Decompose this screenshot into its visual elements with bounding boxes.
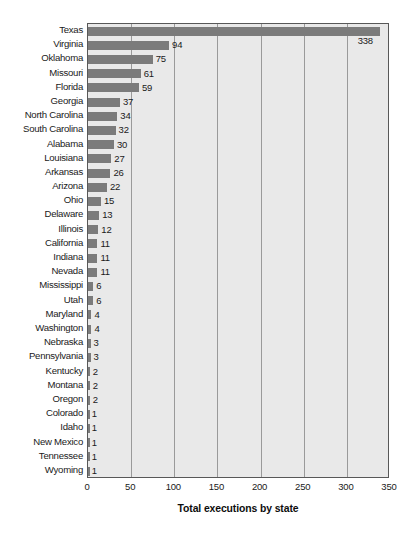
bar[interactable] <box>88 126 116 135</box>
bar[interactable] <box>88 310 91 319</box>
bar-value-label: 75 <box>156 53 166 65</box>
bar-row: 11 <box>88 265 388 279</box>
bar[interactable] <box>88 353 91 362</box>
category-label: Illinois <box>0 222 83 236</box>
bar[interactable] <box>88 69 141 78</box>
bar[interactable] <box>88 438 90 447</box>
category-label: Tennessee <box>0 449 83 463</box>
bar-rows: 3389475615937343230272622151312111111664… <box>88 24 388 477</box>
bar-value-label: 15 <box>104 195 114 207</box>
category-label: California <box>0 236 83 250</box>
category-label: Mississippi <box>0 278 83 292</box>
category-label: Alabama <box>0 137 83 151</box>
x-tick-label: 50 <box>125 481 135 493</box>
category-label: Washington <box>0 321 83 335</box>
bar[interactable] <box>88 197 101 206</box>
category-label: Maryland <box>0 307 83 321</box>
bar[interactable] <box>88 381 90 390</box>
bar-row: 4 <box>88 308 388 322</box>
bar-row: 37 <box>88 95 388 109</box>
bar-row: 1 <box>88 421 388 435</box>
bar-row: 6 <box>88 279 388 293</box>
category-label: Utah <box>0 293 83 307</box>
bar[interactable] <box>88 325 91 334</box>
bar[interactable] <box>88 140 114 149</box>
bar-row: 61 <box>88 67 388 81</box>
bar-value-label: 1 <box>92 408 97 420</box>
bar[interactable] <box>88 282 93 291</box>
bar[interactable] <box>88 467 90 476</box>
x-axis-title: Total executions by state <box>87 503 389 514</box>
bar-value-label: 32 <box>119 124 129 136</box>
x-tick-label: 250 <box>295 481 310 493</box>
bar-row: 3 <box>88 350 388 364</box>
bar[interactable] <box>88 27 380 36</box>
bar-row: 1 <box>88 407 388 421</box>
bar-value-label: 13 <box>102 209 112 221</box>
category-label: Georgia <box>0 94 83 108</box>
bar-row: 3 <box>88 336 388 350</box>
bar-value-label: 12 <box>101 224 111 236</box>
bar-row: 59 <box>88 81 388 95</box>
bar-value-label: 6 <box>96 280 101 292</box>
bar[interactable] <box>88 55 153 64</box>
bar[interactable] <box>88 296 93 305</box>
x-tick-label: 0 <box>84 481 89 493</box>
bar-row: 32 <box>88 123 388 137</box>
bar-value-label: 2 <box>93 366 98 378</box>
bar-value-label: 59 <box>142 82 152 94</box>
bar-row: 15 <box>88 194 388 208</box>
bar[interactable] <box>88 83 139 92</box>
category-label: Montana <box>0 378 83 392</box>
category-label: Wyoming <box>0 463 83 477</box>
category-label: Florida <box>0 80 83 94</box>
bar-value-label: 2 <box>93 380 98 392</box>
bar[interactable] <box>88 452 90 461</box>
bar[interactable] <box>88 424 90 433</box>
bar-row: 27 <box>88 152 388 166</box>
x-tick-label: 200 <box>252 481 267 493</box>
bar-chart: 3389475615937343230272622151312111111664… <box>0 0 405 533</box>
bar[interactable] <box>88 98 120 107</box>
category-label: Virginia <box>0 37 83 51</box>
bar[interactable] <box>88 112 117 121</box>
category-label: Delaware <box>0 207 83 221</box>
bar-row: 338 <box>88 24 388 38</box>
bar[interactable] <box>88 254 97 263</box>
bar-value-label: 3 <box>94 337 99 349</box>
category-label: Indiana <box>0 250 83 264</box>
category-label: Ohio <box>0 193 83 207</box>
bar-value-label: 11 <box>100 266 109 278</box>
x-axis-tick-labels: 050100150200250300350 <box>87 481 389 495</box>
bar[interactable] <box>88 339 91 348</box>
category-label: Nebraska <box>0 335 83 349</box>
bar-value-label: 1 <box>92 422 97 434</box>
bar[interactable] <box>88 367 90 376</box>
bar-row: 2 <box>88 393 388 407</box>
category-label: Arkansas <box>0 165 83 179</box>
bar-row: 11 <box>88 237 388 251</box>
bar[interactable] <box>88 41 169 50</box>
category-label: Arizona <box>0 179 83 193</box>
bar-value-label: 4 <box>94 323 99 335</box>
category-label: Colorado <box>0 406 83 420</box>
bar[interactable] <box>88 268 97 277</box>
bar-value-label: 61 <box>144 68 154 80</box>
bar[interactable] <box>88 239 97 248</box>
bar[interactable] <box>88 211 99 220</box>
category-label: Kentucky <box>0 364 83 378</box>
bar[interactable] <box>88 154 111 163</box>
bar-value-label: 4 <box>94 309 99 321</box>
bar[interactable] <box>88 183 107 192</box>
bar[interactable] <box>88 225 98 234</box>
bar[interactable] <box>88 410 90 419</box>
bar[interactable] <box>88 396 90 405</box>
x-tick-label: 350 <box>381 481 396 493</box>
bar[interactable] <box>88 169 110 178</box>
bar-value-label: 1 <box>92 451 97 463</box>
bar-value-label: 3 <box>94 351 99 363</box>
bar-value-label: 26 <box>113 167 123 179</box>
category-label: Pennsylvania <box>0 349 83 363</box>
bar-value-label: 27 <box>114 153 124 165</box>
bar-value-label: 6 <box>96 295 101 307</box>
